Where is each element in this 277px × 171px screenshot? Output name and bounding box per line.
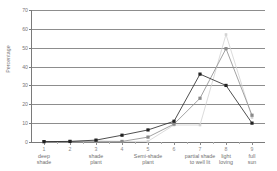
y-tick-label: 10 [22,120,28,126]
series-marker [146,128,149,131]
y-tick-label: 40 [22,64,28,70]
series-marker [172,122,175,125]
plot-area: 010203040506070 123456789 deep shadeshad… [31,10,265,142]
series-marker [225,33,228,36]
x-tick-mark [252,142,253,145]
x-minor-tick-mark [83,142,84,144]
x-minor-tick-mark [57,142,58,144]
x-tick-label: 7 [199,146,202,152]
x-tick-label: 4 [121,146,124,152]
series-line [44,49,252,142]
x-minor-tick-mark [135,142,136,144]
series-marker [120,140,123,143]
series-marker [120,134,123,137]
series-marker [250,114,253,117]
x-minor-tick-mark [187,142,188,144]
y-tick-label: 70 [22,7,28,13]
x-tick-mark [226,142,227,145]
y-tick-label: 50 [22,45,28,51]
series-marker [198,97,201,100]
x-category-label: shade plant [89,153,103,165]
y-axis-title: Percentage [5,27,11,91]
y-tick-label: 20 [22,101,28,107]
x-category-label: partial shade to well lit [185,153,215,165]
x-minor-tick-mark [109,142,110,144]
x-tick-label: 1 [43,146,46,152]
x-tick-label: 5 [147,146,150,152]
series-marker [94,139,97,142]
series-marker [224,84,227,87]
series-marker [224,47,227,50]
x-tick-label: 6 [173,146,176,152]
series-marker [199,124,202,127]
series-marker [146,135,149,138]
x-tick-label: 2 [69,146,72,152]
y-tick-label: 30 [22,82,28,88]
x-category-label: Semi-shade plant [134,153,162,165]
y-tick-mark [29,142,32,143]
data-series-layer [31,10,265,142]
x-minor-tick-mark [239,142,240,144]
x-minor-tick-mark [161,142,162,144]
x-tick-label: 3 [95,146,98,152]
x-minor-tick-mark [213,142,214,144]
x-category-label: full sun [248,153,257,165]
x-tick-mark [200,142,201,145]
chart-container: Percentage 010203040506070 123456789 dee… [0,0,277,171]
y-tick-label: 60 [22,26,28,32]
x-tick-label: 8 [225,146,228,152]
x-category-label: deep shade [37,153,51,165]
series-marker [172,120,175,123]
series-marker [147,140,150,143]
x-tick-label: 9 [251,146,254,152]
series-line [44,35,252,142]
series-marker [198,73,201,76]
series-marker [42,140,45,143]
series-marker [68,140,71,143]
series-marker [250,122,253,125]
x-tick-mark [174,142,175,145]
x-category-label: light loving [219,153,233,165]
y-tick-label: 0 [25,139,28,145]
